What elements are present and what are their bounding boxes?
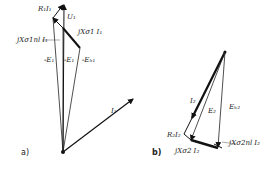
caption-b: b) bbox=[152, 148, 161, 157]
label-minus-e1-a: -E₁ bbox=[44, 57, 54, 64]
caption-a: a) bbox=[21, 148, 29, 157]
label-u1: U₁ bbox=[67, 14, 76, 21]
label-r2-i2: R₂I₂ bbox=[167, 132, 181, 139]
label-r1-i1: R₁I₁ bbox=[38, 6, 52, 13]
label-minus-e1-b: -E₁ bbox=[64, 57, 74, 64]
label-e2: E₂ bbox=[208, 108, 216, 115]
label-jx-sigma2-nl-i2: jXσ2nl I₂ bbox=[229, 140, 260, 147]
label-jx-sigma2-i2: jXσ2 I₂ bbox=[175, 148, 199, 155]
label-i1: I₁ bbox=[111, 108, 117, 115]
label-minus-eh1: -Eₕ₁ bbox=[82, 57, 95, 64]
label-jx-sigma1-nl-i1: jXσ1nl I₁ bbox=[17, 37, 48, 44]
label-eh2: Eₕ₂ bbox=[229, 104, 240, 111]
label-i2: I₂ bbox=[190, 98, 196, 105]
label-jx-sigma1-i1: jXσ1 I₁ bbox=[78, 29, 102, 36]
